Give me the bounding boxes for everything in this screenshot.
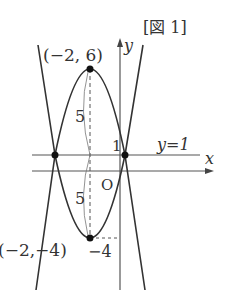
bottom-point: [87, 235, 94, 242]
graph-figure: [図 1] (−2, 6) y x O 1 y=1 5 5 (−2,−4) −4: [0, 0, 231, 296]
left-intersection: [52, 152, 59, 159]
top-point: [87, 66, 94, 73]
right-intersection: [122, 152, 129, 159]
upper-distance-label: 5: [75, 107, 85, 126]
y-axis-label: y: [123, 36, 134, 55]
y-axis-arrow-icon: [117, 38, 123, 47]
y-one-tick: 1: [112, 137, 122, 155]
lower-distance-label: 5: [75, 189, 85, 208]
bottom-y-tick: −4: [88, 242, 112, 261]
x-axis-arrow-icon: [205, 168, 214, 174]
bottom-point-label: (−2,−4): [0, 240, 67, 260]
outer-curve-right: [125, 45, 145, 290]
line-label: y=1: [156, 135, 190, 154]
x-axis-label: x: [205, 149, 214, 168]
figure-caption: [図 1]: [143, 18, 187, 37]
top-point-label: (−2, 6): [43, 45, 103, 65]
origin-label: O: [101, 176, 113, 194]
